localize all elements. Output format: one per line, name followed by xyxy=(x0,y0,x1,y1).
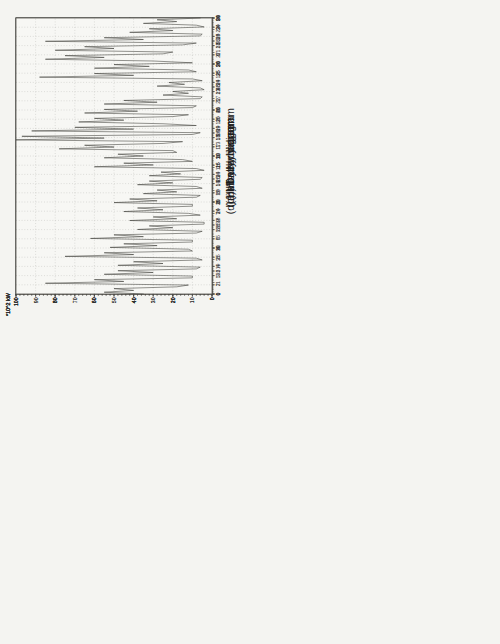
svg-text:7: 7 xyxy=(215,237,221,240)
svg-text:14: 14 xyxy=(215,171,221,177)
svg-text:12: 12 xyxy=(215,190,221,196)
svg-text:100: 100 xyxy=(13,297,19,306)
svg-text:27: 27 xyxy=(215,52,221,58)
svg-text:22: 22 xyxy=(215,98,221,104)
svg-text:80: 80 xyxy=(52,297,58,303)
svg-text:1: 1 xyxy=(215,292,221,295)
svg-text:18: 18 xyxy=(215,135,221,141)
svg-text:28: 28 xyxy=(215,43,221,49)
svg-text:11: 11 xyxy=(215,199,221,204)
caption-monthly-diagram: (c) Monthly diagram xyxy=(225,0,236,322)
svg-text:2: 2 xyxy=(215,283,221,286)
svg-text:5: 5 xyxy=(215,256,221,259)
svg-text:3: 3 xyxy=(215,274,221,277)
svg-text:31: 31 xyxy=(215,15,221,21)
svg-text:20: 20 xyxy=(215,116,221,122)
svg-text:70: 70 xyxy=(72,297,78,303)
svg-text:50: 50 xyxy=(111,297,117,303)
svg-text:60: 60 xyxy=(91,297,97,303)
monthly-diagram-chart: 1234567891011121314151617181920212223242… xyxy=(0,0,250,322)
svg-text:20: 20 xyxy=(170,297,176,303)
svg-text:29: 29 xyxy=(215,33,221,39)
svg-text:16: 16 xyxy=(215,153,221,159)
svg-text:10: 10 xyxy=(215,208,221,214)
svg-text:0: 0 xyxy=(209,297,215,300)
x-axis-tick-labels: 1234567891011121314151617181920212223242… xyxy=(215,15,221,295)
svg-text:4: 4 xyxy=(215,265,221,268)
svg-text:21: 21 xyxy=(215,107,221,113)
svg-text:6: 6 xyxy=(215,246,221,249)
svg-text:13: 13 xyxy=(215,181,221,187)
svg-text:9: 9 xyxy=(215,219,221,222)
svg-text:19: 19 xyxy=(215,125,221,131)
svg-text:30: 30 xyxy=(215,24,221,30)
svg-text:17: 17 xyxy=(215,144,221,150)
svg-text:24: 24 xyxy=(215,79,221,85)
y-axis-unit-label: *10^2 kW xyxy=(5,293,11,316)
figure-load-diagrams: 0123456789101112131415161718192021222324… xyxy=(0,0,500,644)
svg-text:8: 8 xyxy=(215,228,221,231)
svg-text:26: 26 xyxy=(215,61,221,67)
svg-text:23: 23 xyxy=(215,89,221,95)
svg-text:30: 30 xyxy=(150,297,156,303)
svg-text:90: 90 xyxy=(33,297,39,303)
svg-text:15: 15 xyxy=(215,162,221,168)
svg-text:40: 40 xyxy=(131,297,137,303)
svg-text:25: 25 xyxy=(215,70,221,76)
panel-monthly-diagram: 1234567891011121314151617181920212223242… xyxy=(0,0,250,322)
y-axis-tick-labels: 0102030405060708090100 xyxy=(13,297,215,306)
rotated-chart-wrapper-monthly: 1234567891011121314151617181920212223242… xyxy=(0,0,250,322)
svg-text:10: 10 xyxy=(189,297,195,303)
